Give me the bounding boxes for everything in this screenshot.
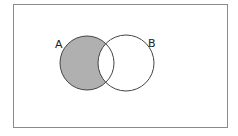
set-b-label: B <box>148 37 156 50</box>
set-a-label: A <box>55 38 63 51</box>
venn-diagram: A B <box>0 0 238 136</box>
